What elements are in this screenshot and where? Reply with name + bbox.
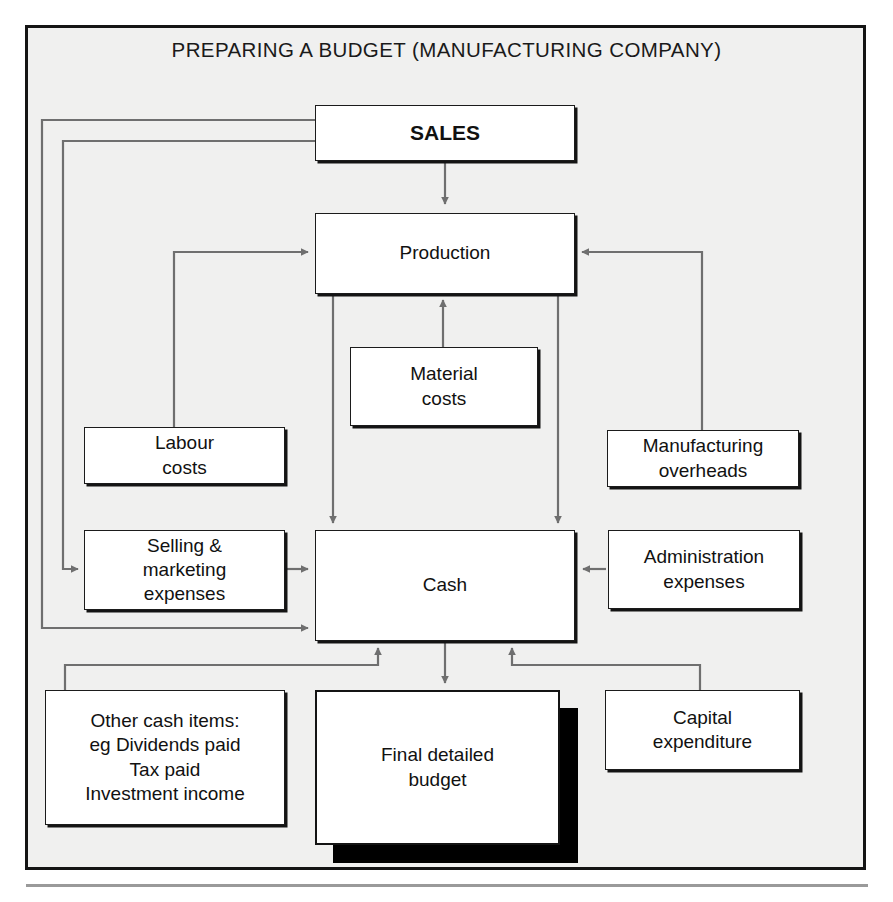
node-manufacturing-overheads[interactable]: Manufacturing overheads <box>607 430 799 487</box>
node-sales-label: SALES <box>316 120 574 147</box>
node-final-detailed-budget[interactable]: Final detailed budget <box>315 690 560 845</box>
node-production[interactable]: Production <box>315 213 575 294</box>
node-material-costs-label: Material costs <box>351 362 537 411</box>
node-material-costs-line1: Material <box>410 363 478 384</box>
node-capital-expenditure-line1: Capital <box>673 707 732 728</box>
node-labour-costs-line1: Labour <box>155 432 214 453</box>
node-other-cash-items[interactable]: Other cash items: eg Dividends paid Tax … <box>45 690 285 825</box>
node-administration-expenses[interactable]: Administration expenses <box>608 530 800 609</box>
node-capital-expenditure[interactable]: Capital expenditure <box>605 690 800 770</box>
node-cash[interactable]: Cash <box>315 530 575 641</box>
node-other-cash-items-line2: eg Dividends paid <box>89 734 240 755</box>
node-selling-marketing-expenses-label: Selling & marketing expenses <box>85 534 284 607</box>
node-final-budget-line1: Final detailed <box>381 744 494 765</box>
node-capital-expenditure-label: Capital expenditure <box>606 706 799 755</box>
node-labour-costs-line2: costs <box>162 457 206 478</box>
node-cash-label: Cash <box>316 573 574 597</box>
node-labour-costs-label: Labour costs <box>85 431 284 480</box>
node-production-label: Production <box>316 241 574 265</box>
figure-root: PREPARING A BUDGET (MANUFACTURING COMPAN… <box>0 0 893 902</box>
node-labour-costs[interactable]: Labour costs <box>84 427 285 484</box>
node-material-costs-line2: costs <box>422 388 466 409</box>
node-administration-line1: Administration <box>644 546 764 567</box>
node-material-costs[interactable]: Material costs <box>350 347 538 426</box>
node-manufacturing-overheads-label: Manufacturing overheads <box>608 434 798 483</box>
node-selling-marketing-expenses[interactable]: Selling & marketing expenses <box>84 530 285 610</box>
node-other-cash-items-line4: Investment income <box>85 783 244 804</box>
node-sales[interactable]: SALES <box>315 105 575 161</box>
node-final-detailed-budget-label: Final detailed budget <box>317 743 558 792</box>
node-administration-line2: expenses <box>663 571 744 592</box>
node-selling-marketing-line2: marketing <box>143 559 226 580</box>
node-selling-marketing-line3: expenses <box>144 583 225 604</box>
node-administration-expenses-label: Administration expenses <box>609 545 799 594</box>
bottom-divider-rule <box>26 884 868 887</box>
node-capital-expenditure-line2: expenditure <box>653 731 752 752</box>
node-other-cash-items-line1: Other cash items: <box>91 710 240 731</box>
node-other-cash-items-line3: Tax paid <box>130 759 201 780</box>
node-manufacturing-overheads-line2: overheads <box>659 460 748 481</box>
node-other-cash-items-label: Other cash items: eg Dividends paid Tax … <box>46 709 284 806</box>
node-final-budget-line2: budget <box>408 769 466 790</box>
node-selling-marketing-line1: Selling & <box>147 535 222 556</box>
node-manufacturing-overheads-line1: Manufacturing <box>643 435 763 456</box>
figure-title: PREPARING A BUDGET (MANUFACTURING COMPAN… <box>0 38 893 62</box>
